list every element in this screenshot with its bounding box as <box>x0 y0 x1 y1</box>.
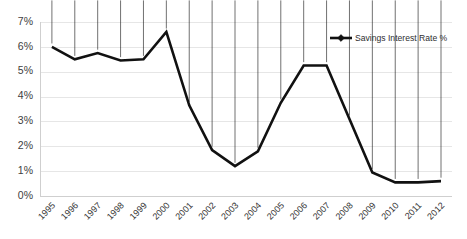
y-axis-tick-label: 7% <box>18 15 33 27</box>
chart-container: 0%1%2%3%4%5%6%7% 19951996199719981999200… <box>0 0 467 239</box>
y-axis-tick-label: 4% <box>18 89 33 101</box>
y-axis-tick-label: 0% <box>18 189 33 201</box>
y-axis-tick-label: 5% <box>18 64 33 76</box>
y-axis-tick-label: 6% <box>18 40 33 52</box>
line-chart: 0%1%2%3%4%5%6%7% 19951996199719981999200… <box>0 0 467 239</box>
y-axis-tick-label: 3% <box>18 114 33 126</box>
y-axis-tick-label: 1% <box>18 164 33 176</box>
y-axis-tick-label: 2% <box>18 139 33 151</box>
legend-label: Savings Interest Rate % <box>355 33 448 43</box>
